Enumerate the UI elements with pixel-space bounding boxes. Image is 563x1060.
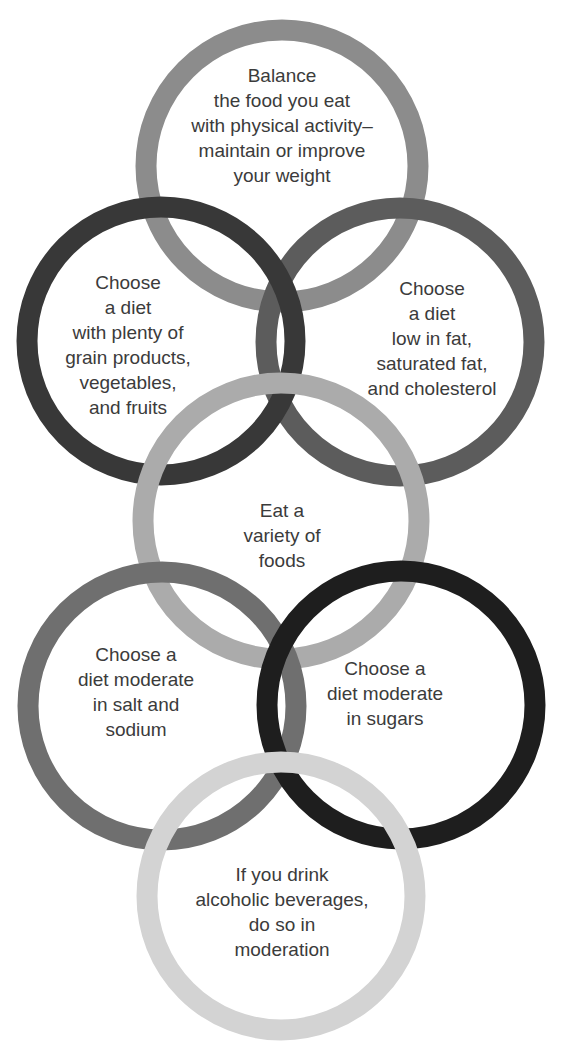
label-salt: Choose a diet moderate in salt and sodiu… bbox=[78, 642, 194, 742]
label-balance: Balance the food you eat with physical a… bbox=[191, 63, 373, 188]
label-low-fat: Choose a diet low in fat, saturated fat,… bbox=[368, 276, 497, 401]
label-alcohol: If you drink alcoholic beverages, do so … bbox=[195, 862, 368, 962]
label-grain: Choose a diet with plenty of grain produ… bbox=[65, 270, 191, 420]
label-variety: Eat a variety of foods bbox=[243, 498, 320, 573]
label-sugars: Choose a diet moderate in sugars bbox=[327, 656, 443, 731]
